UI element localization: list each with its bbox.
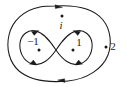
point-dot (72, 49, 75, 52)
point-label-imaginary-unit: i (59, 19, 62, 31)
outer-contour-path (8, 6, 110, 82)
point-dot (105, 46, 108, 49)
left-lobe-bottom-arrowhead-icon (30, 60, 37, 64)
point-dot (38, 49, 41, 52)
contour-figure: −1 1 i 2 (0, 0, 127, 87)
figure-eight-right-lobe-path (56, 31, 92, 65)
contour-diagram-canvas: −1 1 i 2 (0, 0, 127, 87)
point-two: 2 (105, 40, 116, 52)
point-dot (61, 15, 64, 18)
outer-contour (8, 5, 110, 83)
point-plus-one: 1 (72, 36, 82, 52)
right-lobe-bottom-arrowhead-icon (76, 60, 83, 64)
point-label-plus-one: 1 (76, 36, 82, 48)
outer-top-arrowhead-icon (55, 5, 63, 9)
point-label-two: 2 (110, 40, 116, 52)
point-minus-one: −1 (27, 35, 40, 52)
point-label-minus-one: −1 (27, 35, 39, 47)
point-imaginary-unit: i (59, 15, 63, 31)
